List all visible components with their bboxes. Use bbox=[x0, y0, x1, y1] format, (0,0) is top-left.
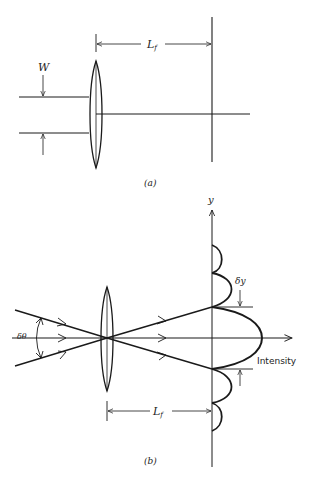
focal-length-label-a: Lf bbox=[146, 38, 158, 52]
intensity-label: Intensity bbox=[257, 356, 297, 366]
focal-length-label-b: Lf bbox=[152, 405, 164, 419]
intensity-side-lobe-lower-2 bbox=[212, 403, 222, 431]
ray-lower-in bbox=[15, 338, 107, 366]
y-axis-label: y bbox=[207, 194, 214, 205]
intensity-side-lobe-lower-1 bbox=[212, 369, 232, 403]
caption-b: (b) bbox=[144, 456, 157, 466]
spot-size-label: δy bbox=[235, 276, 246, 286]
ray-upper-out bbox=[107, 307, 212, 338]
ray-lower-out bbox=[107, 338, 212, 369]
intensity-side-lobe-upper-1 bbox=[212, 273, 232, 307]
intensity-side-lobe-upper-2 bbox=[212, 245, 222, 273]
ray-upper-in bbox=[15, 310, 107, 338]
optics-diagram: W Lf (a) bbox=[0, 0, 313, 479]
figure-b bbox=[12, 210, 292, 467]
angle-label: δθ bbox=[17, 332, 27, 341]
caption-a: (a) bbox=[144, 178, 157, 188]
beam-width-label: W bbox=[38, 61, 51, 74]
figure-a bbox=[19, 17, 250, 168]
